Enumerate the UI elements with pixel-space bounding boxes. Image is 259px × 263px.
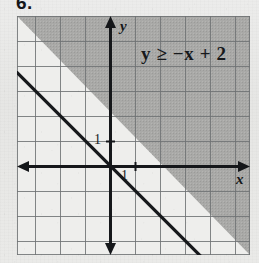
problem-number: 6. (16, 0, 33, 12)
inequality-annotation: y ≥ −x + 2 (141, 43, 227, 65)
x-axis-tick-label-one: 1 (121, 168, 128, 184)
x-axis-label: x (236, 171, 244, 188)
y-axis-tick-label-one: 1 (94, 132, 101, 148)
y-axis-label: y (120, 18, 127, 35)
inequality-graph-figure: 6. (0, 0, 259, 263)
